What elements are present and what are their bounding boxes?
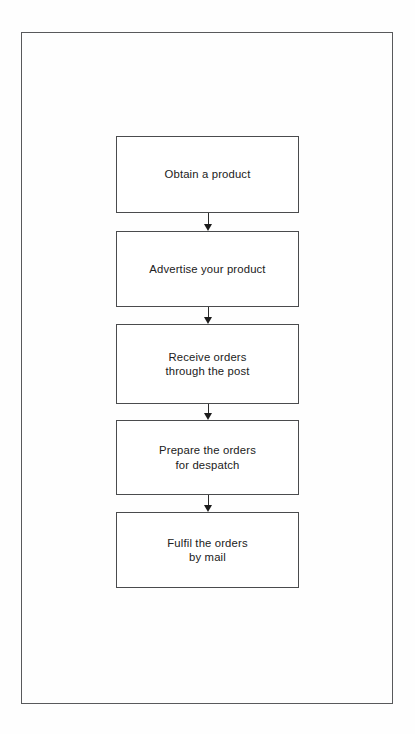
flowchart-node-label: Prepare the orders for despatch: [153, 443, 262, 472]
flowchart-node-label: Receive orders through the post: [159, 350, 255, 379]
flowchart-node-step-2[interactable]: Advertise your product: [116, 231, 299, 307]
arrow-head-icon: [204, 224, 212, 231]
flowchart-node-step-4[interactable]: Prepare the orders for despatch: [116, 420, 299, 495]
arrow-head-icon: [204, 317, 212, 324]
flowchart-arrow-step-2-to-step-3: [201, 307, 216, 324]
flowchart-node-label: Fulfil the orders by mail: [161, 536, 253, 565]
flowchart-node-label: Advertise your product: [143, 262, 271, 277]
flowchart-node-step-1[interactable]: Obtain a product: [116, 136, 299, 213]
flowchart-arrow-step-3-to-step-4: [201, 404, 216, 420]
flowchart: Obtain a product Advertise your product …: [0, 0, 415, 734]
arrow-head-icon: [204, 505, 212, 512]
page-canvas: Obtain a product Advertise your product …: [0, 0, 415, 734]
flowchart-arrow-step-1-to-step-2: [201, 213, 216, 231]
flowchart-node-step-3[interactable]: Receive orders through the post: [116, 324, 299, 404]
flowchart-node-label: Obtain a product: [159, 167, 257, 182]
flowchart-node-step-5[interactable]: Fulfil the orders by mail: [116, 512, 299, 588]
flowchart-arrow-step-4-to-step-5: [201, 495, 216, 512]
arrow-head-icon: [204, 413, 212, 420]
